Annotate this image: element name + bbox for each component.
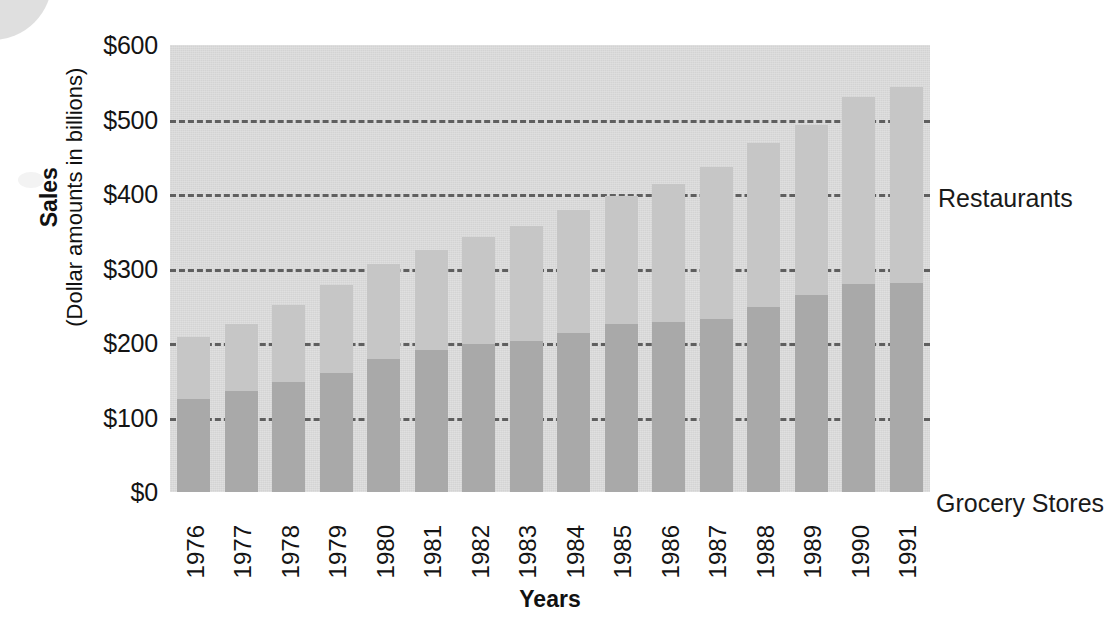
y-tick-label: $600 [38,31,158,60]
bar-group[interactable] [842,45,875,492]
bar-group[interactable] [747,45,780,492]
bar-segment-grocery-stores[interactable] [842,284,875,492]
bar-group[interactable] [795,45,828,492]
x-tick-label: 1987 [704,525,732,578]
y-tick-label: $300 [38,254,158,283]
bar-segment-restaurants[interactable] [367,264,400,359]
x-tick-label: 1990 [847,525,875,578]
bar-group[interactable] [890,45,923,492]
bar-group[interactable] [367,45,400,492]
x-tick-label: 1978 [277,525,305,578]
x-tick-label: 1984 [562,525,590,578]
bar-group[interactable] [225,45,258,492]
x-axis-title: Years [170,586,930,613]
x-tick-label: 1982 [467,525,495,578]
bar-segment-grocery-stores[interactable] [510,341,543,492]
bar-segment-grocery-stores[interactable] [795,295,828,492]
bar-segment-grocery-stores[interactable] [415,350,448,492]
bar-segment-grocery-stores[interactable] [747,307,780,493]
x-tick-label: 1986 [657,525,685,578]
y-tick-label: $400 [38,180,158,209]
bar-segment-restaurants[interactable] [890,87,923,283]
x-tick-label: 1979 [324,525,352,578]
bar-group[interactable] [652,45,685,492]
bar-segment-grocery-stores[interactable] [605,324,638,492]
bar-segment-restaurants[interactable] [747,143,780,307]
bar-segment-grocery-stores[interactable] [557,333,590,492]
bar-group[interactable] [272,45,305,492]
y-tick-label: $500 [38,105,158,134]
bar-segment-restaurants[interactable] [462,237,495,344]
bar-group[interactable] [557,45,590,492]
bar-segment-restaurants[interactable] [320,285,353,373]
x-tick-label: 1977 [229,525,257,578]
x-axis-tick-labels: 1976197719781979198019811982198319841985… [170,500,930,578]
y-tick-label: $0 [38,478,158,507]
bar-segment-restaurants[interactable] [510,226,543,341]
x-tick-label: 1983 [514,525,542,578]
bar-group[interactable] [415,45,448,492]
x-tick-label: 1985 [609,525,637,578]
bar-segment-restaurants[interactable] [415,250,448,350]
x-tick-label: 1981 [419,525,447,578]
bar-segment-grocery-stores[interactable] [652,322,685,492]
x-tick-label: 1988 [752,525,780,578]
bar-segment-restaurants[interactable] [557,210,590,333]
bar-segment-grocery-stores[interactable] [320,373,353,492]
bar-segment-restaurants[interactable] [272,305,305,382]
bar-segment-restaurants[interactable] [842,97,875,284]
bar-segment-restaurants[interactable] [605,196,638,325]
bar-segment-grocery-stores[interactable] [367,359,400,492]
x-tick-label: 1989 [799,525,827,578]
y-tick-label: $200 [38,329,158,358]
bar-group[interactable] [605,45,638,492]
bar-group[interactable] [462,45,495,492]
bar-group[interactable] [320,45,353,492]
bar-group[interactable] [510,45,543,492]
x-tick-label: 1980 [372,525,400,578]
plot-area: Restaurants Grocery Stores [170,45,930,492]
series-label-restaurants: Restaurants [938,184,1073,213]
bar-group[interactable] [177,45,210,492]
y-axis-tick-labels: $600$500$400$300$200$100$0 [28,45,158,492]
bar-segment-restaurants[interactable] [652,184,685,322]
bar-segment-restaurants[interactable] [700,167,733,319]
bar-segment-grocery-stores[interactable] [462,344,495,492]
bar-segment-grocery-stores[interactable] [272,382,305,492]
bar-segment-grocery-stores[interactable] [700,319,733,492]
bar-segment-grocery-stores[interactable] [225,391,258,492]
bar-segment-grocery-stores[interactable] [890,283,923,492]
bar-segment-grocery-stores[interactable] [177,399,210,492]
x-tick-label: 1976 [182,525,210,578]
y-tick-label: $100 [38,403,158,432]
bar-segment-restaurants[interactable] [795,125,828,294]
series-label-grocery-stores: Grocery Stores [936,489,1104,518]
bar-segment-restaurants[interactable] [177,337,210,399]
x-tick-label: 1991 [894,525,922,578]
bar-group[interactable] [700,45,733,492]
bar-segment-restaurants[interactable] [225,324,258,390]
